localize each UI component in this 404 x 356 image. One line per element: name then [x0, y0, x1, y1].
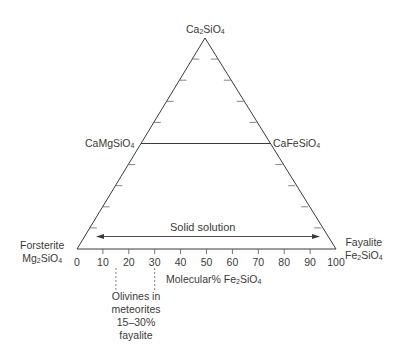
annotation-line-1: Olivines in — [107, 290, 165, 303]
axis-label: Molecular% Fe2SiO4 — [166, 273, 261, 288]
tick-40: 40 — [175, 256, 187, 268]
apex-label: Ca2SiO4 — [186, 23, 225, 38]
annotation-line-3: 15–30% — [107, 316, 165, 329]
forsterite-label: Forsterite Mg2SiO4 — [20, 239, 64, 267]
solid-solution-arrow — [96, 234, 320, 239]
annotation-line-4: fayalite — [107, 329, 165, 342]
tick-90: 90 — [304, 256, 316, 268]
annotation-line-2: meteorites — [107, 303, 165, 316]
base-ticks — [103, 249, 310, 254]
tick-50: 50 — [201, 256, 213, 268]
ternary-diagram — [0, 0, 404, 356]
fayalite-mineral: Fayalite — [345, 236, 383, 249]
tick-70: 70 — [252, 256, 264, 268]
tick-60: 60 — [227, 256, 239, 268]
tick-80: 80 — [278, 256, 290, 268]
tick-30: 30 — [149, 256, 161, 268]
meteorite-annotation: Olivines in meteorites 15–30% fayalite — [107, 290, 165, 342]
tick-100: 100 — [327, 256, 345, 268]
fayalite-label: Fayalite Fe2SiO4 — [345, 236, 383, 264]
forsterite-mineral: Forsterite — [20, 239, 64, 252]
tick-20: 20 — [123, 256, 135, 268]
tick-0: 0 — [74, 256, 80, 268]
forsterite-formula: Mg2SiO4 — [20, 252, 64, 267]
midline-left-label: CaMgSiO4 — [85, 137, 134, 152]
tick-10: 10 — [97, 256, 109, 268]
solid-solution-label: Solid solution — [170, 221, 235, 234]
midline-right-label: CaFeSiO4 — [273, 137, 320, 152]
fayalite-formula: Fe2SiO4 — [345, 249, 383, 264]
